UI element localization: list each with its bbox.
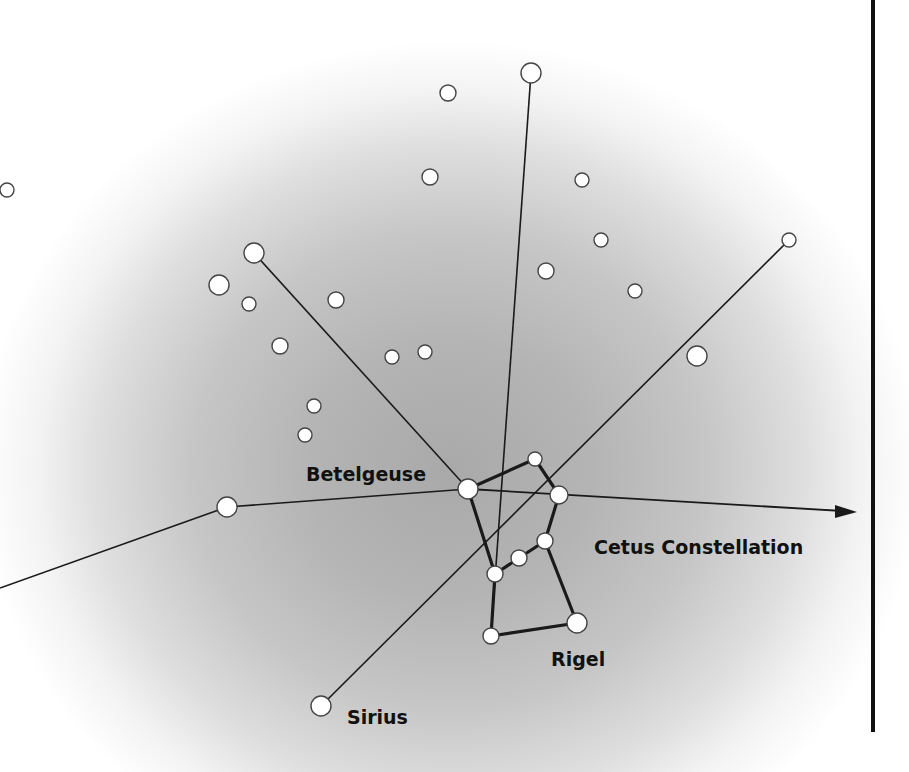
- vertical-divider-line: [871, 0, 875, 732]
- star: [385, 350, 399, 364]
- background-stars: [0, 85, 642, 442]
- label-rigel: Rigel: [551, 648, 605, 670]
- star: [0, 183, 14, 197]
- figure-line: [545, 541, 577, 623]
- figure-line: [491, 623, 577, 636]
- star: [242, 297, 256, 311]
- cetus-direction-arrow: [468, 489, 857, 518]
- star-left-foot: [483, 628, 499, 644]
- star: [328, 292, 344, 308]
- star-belt-left: [487, 566, 503, 582]
- star: [272, 338, 288, 354]
- label-cetus-constellation: Cetus Constellation: [594, 536, 803, 558]
- star-top-target: [521, 63, 541, 83]
- star-betelgeuse: [458, 479, 478, 499]
- sight-line: [491, 73, 531, 636]
- orion-stars: [458, 452, 587, 644]
- star: [418, 345, 432, 359]
- star: [209, 275, 229, 295]
- figure-line: [468, 489, 495, 574]
- star-head: [528, 452, 542, 466]
- star: [440, 85, 456, 101]
- sight-line: [227, 489, 468, 507]
- star-right-upper-target: [782, 233, 796, 247]
- star: [575, 173, 589, 187]
- diagram-drawing: [0, 0, 909, 772]
- star-upper-left-target: [244, 243, 264, 263]
- star-right-shoulder: [550, 486, 568, 504]
- sight-line: [254, 253, 468, 489]
- star: [628, 284, 642, 298]
- star: [298, 428, 312, 442]
- star: [422, 169, 438, 185]
- arrowhead-icon: [835, 505, 857, 518]
- star: [307, 399, 321, 413]
- pointer-stars: [217, 63, 796, 716]
- star: [594, 233, 608, 247]
- star-chart-diagram: Betelgeuse Cetus Constellation Rigel Sir…: [0, 0, 909, 772]
- star-belt-right: [537, 533, 553, 549]
- sight-lines: [0, 73, 789, 706]
- sight-line: [0, 507, 227, 588]
- label-sirius: Sirius: [347, 706, 408, 728]
- star: [538, 263, 554, 279]
- star-sirius: [311, 696, 331, 716]
- star-right-mid-target: [687, 346, 707, 366]
- star-rigel: [567, 613, 587, 633]
- star-left-target: [217, 497, 237, 517]
- arrow-shaft: [468, 489, 843, 511]
- figure-line: [491, 574, 495, 636]
- star-belt-middle: [511, 550, 527, 566]
- label-betelgeuse: Betelgeuse: [306, 463, 426, 485]
